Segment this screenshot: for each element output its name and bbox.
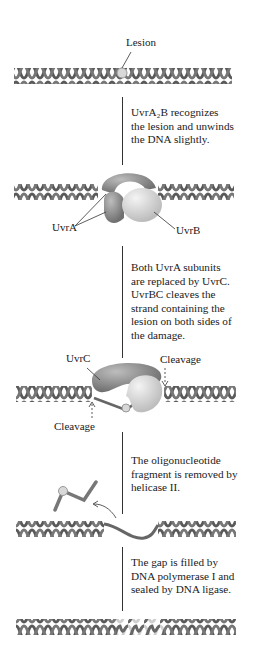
step-3-text: The oligonucleotide fragment is removed … <box>131 454 238 495</box>
uvrb-label: UvrB <box>176 224 200 236</box>
uvrc-label: UvrC <box>66 352 90 364</box>
dna-helix-damaged <box>14 52 232 84</box>
removal-arrow <box>94 504 116 518</box>
cleavage-label-bottom: Cleavage <box>54 420 95 432</box>
lesion-icon <box>117 68 127 78</box>
step-arrow-1 <box>122 97 123 165</box>
uvra-bottom-icon <box>104 192 124 223</box>
dna-helix-uvra2b <box>14 173 234 229</box>
step-1-text: UvrA₂B recognizes the lesion and unwinds… <box>131 106 234 147</box>
step-arrow-2 <box>122 246 123 358</box>
lesion-label: Lesion <box>126 36 156 48</box>
oligonucleotide-fragment-icon <box>55 482 96 510</box>
uvra-label: UvrA <box>52 221 77 233</box>
cleavage-label-top: Cleavage <box>160 353 201 365</box>
uvrb-icon <box>122 188 162 222</box>
step-4-text: The gap is filled by DNA polymerase I an… <box>131 556 234 597</box>
step-arrow-4 <box>122 547 123 611</box>
dna-helix-repaired <box>16 619 236 635</box>
dna-helix-uvrbc <box>16 363 236 418</box>
step-2-text: Both UvrA subunits are replaced by UvrC.… <box>131 261 232 343</box>
step-arrow-3 <box>122 432 123 514</box>
